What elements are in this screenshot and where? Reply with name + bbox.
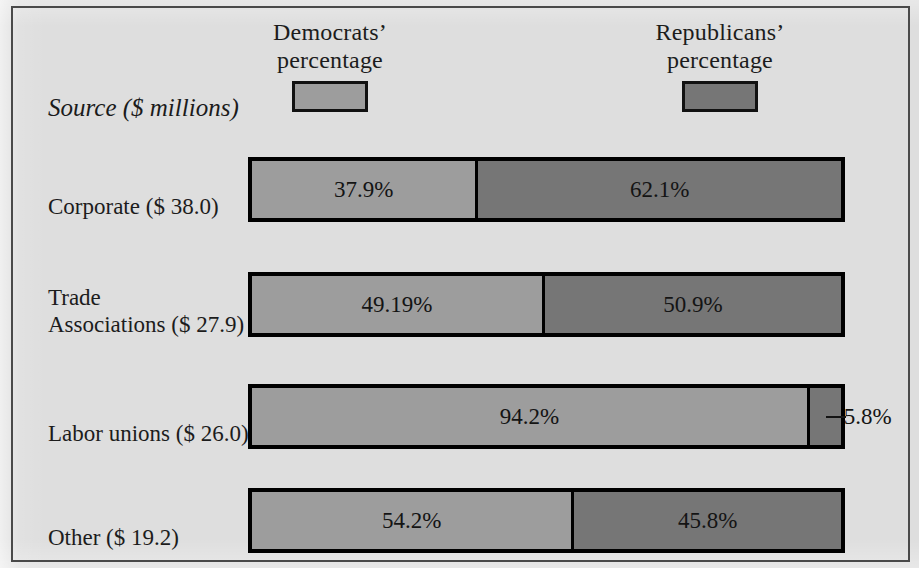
row-label-other: Other ($ 19.2) bbox=[48, 524, 179, 551]
bar-segment-democrats: 37.9% bbox=[252, 161, 475, 218]
legend-republicans: Republicans’ percentage bbox=[625, 18, 815, 112]
bar-segment-republicans: 5.8% bbox=[807, 388, 841, 445]
row-label-labor-unions: Labor unions ($ 26.0) bbox=[48, 420, 249, 447]
bar-value-republicans: 45.8% bbox=[678, 508, 737, 534]
row-label-corporate: Corporate ($ 38.0) bbox=[48, 193, 219, 220]
legend-democrats-label-line2: percentage bbox=[235, 46, 425, 74]
bar-value-republicans: 50.9% bbox=[663, 292, 722, 318]
legend-republicans-label-line1: Republicans’ bbox=[625, 18, 815, 46]
bar-value-democrats: 49.19% bbox=[361, 292, 432, 318]
bar-segment-republicans: 50.9% bbox=[542, 276, 841, 333]
source-column-header: Source ($ millions) bbox=[48, 94, 239, 122]
bar-segment-democrats: 54.2% bbox=[252, 492, 571, 549]
stacked-bar-trade-associations: 49.19% 50.9% bbox=[248, 272, 845, 337]
stacked-bar-other: 54.2% 45.8% bbox=[248, 488, 845, 553]
legend-republicans-label-line2: percentage bbox=[625, 46, 815, 74]
figure-canvas: Democrats’ percentage Republicans’ perce… bbox=[0, 0, 919, 568]
bar-segment-republicans: 62.1% bbox=[475, 161, 841, 218]
bar-value-democrats: 37.9% bbox=[334, 177, 393, 203]
bar-segment-democrats: 49.19% bbox=[252, 276, 542, 333]
stacked-bar-labor-unions: 94.2% 5.8% bbox=[248, 384, 845, 449]
bar-value-democrats: 54.2% bbox=[382, 508, 441, 534]
row-label-trade-associations: Trade Associations ($ 27.9) bbox=[48, 284, 244, 338]
bar-segment-republicans: 45.8% bbox=[571, 492, 841, 549]
bar-value-republicans: 62.1% bbox=[630, 177, 689, 203]
stacked-bar-corporate: 37.9% 62.1% bbox=[248, 157, 845, 222]
legend-democrats-swatch bbox=[292, 81, 368, 112]
bar-value-democrats: 94.2% bbox=[500, 404, 559, 430]
legend-democrats: Democrats’ percentage bbox=[235, 18, 425, 112]
legend-democrats-label-line1: Democrats’ bbox=[235, 18, 425, 46]
legend-republicans-swatch bbox=[682, 81, 758, 112]
callout-leader-line bbox=[826, 416, 846, 418]
bar-segment-democrats: 94.2% bbox=[252, 388, 807, 445]
bar-value-republicans: 5.8% bbox=[844, 404, 892, 430]
